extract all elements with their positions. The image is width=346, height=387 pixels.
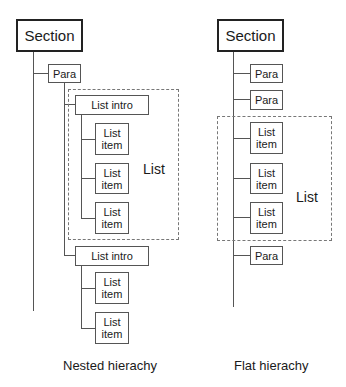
list-item-label: item	[256, 218, 277, 230]
list-item-label: item	[256, 179, 277, 191]
para-branch	[33, 73, 48, 74]
list-intro-2-branch	[64, 255, 75, 256]
list-item-label: item	[102, 288, 123, 300]
list-item-label: item	[102, 218, 123, 230]
section-label: Section	[24, 30, 74, 42]
para-label: Para	[255, 94, 278, 106]
section-node: Section	[16, 19, 83, 52]
list-intro-label: List intro	[91, 250, 133, 262]
list-item-label: item	[102, 328, 123, 340]
list-item-node: Listitem	[250, 122, 283, 154]
list-item-node: Listitem	[95, 272, 129, 304]
flat-caption: Flat hierachy	[234, 358, 308, 373]
para-node: Para	[250, 246, 283, 265]
nested-caption: Nested hierachy	[63, 358, 157, 373]
para-node: Para	[48, 64, 81, 83]
list-item-node: Listitem	[95, 123, 129, 155]
item-branch	[81, 288, 95, 289]
list-item-label: List	[103, 276, 120, 288]
list-intro-label: List intro	[91, 99, 133, 111]
list-item-label: item	[256, 138, 277, 150]
para-label: Para	[255, 250, 278, 262]
para-connector	[64, 82, 65, 256]
section-connector	[33, 51, 34, 311]
para-branch	[233, 255, 250, 256]
list-group-label: List	[296, 189, 318, 205]
para-label: Para	[255, 68, 278, 80]
list-item-node: Listitem	[95, 202, 129, 234]
list-item-node: Listitem	[250, 202, 283, 234]
list-item-label: List	[103, 167, 120, 179]
para-branch	[233, 73, 250, 74]
list-item-node: Listitem	[95, 312, 129, 344]
list-item-label: List	[103, 316, 120, 328]
para-node: Para	[250, 64, 283, 83]
item-branch	[81, 328, 95, 329]
list-group-label: List	[143, 161, 165, 177]
list-intro-node: List intro	[75, 95, 149, 115]
list-intro-2-connector	[81, 265, 82, 328]
list-item-label: List	[258, 167, 275, 179]
para-branch	[233, 99, 250, 100]
list-item-label: List	[103, 206, 120, 218]
section-label: Section	[225, 30, 275, 42]
list-item-label: item	[102, 139, 123, 151]
para-node: Para	[250, 90, 283, 110]
list-item-node: Listitem	[95, 163, 129, 194]
section-node: Section	[217, 19, 284, 52]
para-label: Para	[53, 68, 76, 80]
list-intro-node: List intro	[75, 246, 149, 266]
list-item-label: item	[102, 179, 123, 191]
list-item-label: List	[258, 126, 275, 138]
list-item-node: Listitem	[250, 163, 283, 194]
list-item-label: List	[103, 127, 120, 139]
list-item-label: List	[258, 206, 275, 218]
